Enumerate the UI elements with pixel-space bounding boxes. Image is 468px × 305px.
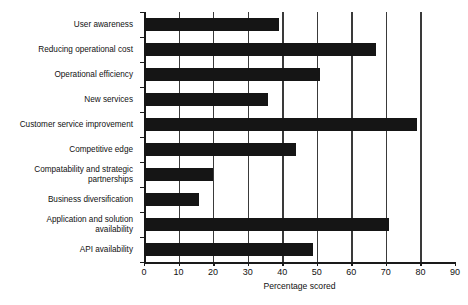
bar (144, 93, 268, 106)
bar-slot (144, 62, 455, 87)
bar (144, 43, 376, 56)
category-label: User awareness (0, 12, 138, 37)
x-tick-90 (455, 262, 456, 266)
bar-slot (144, 112, 455, 137)
bar (144, 168, 213, 181)
x-tick-20 (213, 262, 214, 266)
x-tick-label: 20 (208, 267, 218, 278)
bar (144, 68, 320, 81)
bar (144, 193, 199, 206)
category-label: Competitive edge (0, 137, 138, 162)
category-label: Reducing operational cost (0, 37, 138, 62)
bars-layer (144, 12, 455, 262)
category-axis-labels: User awareness Reducing operational cost… (0, 12, 138, 262)
bar-slot (144, 187, 455, 212)
x-tick-60 (351, 262, 352, 266)
bar-slot (144, 162, 455, 187)
category-label: Operational efficiency (0, 62, 138, 87)
category-label: Application and solution availability (0, 212, 138, 237)
category-label: API availability (0, 237, 138, 262)
x-tick-label: 70 (381, 267, 391, 278)
x-tick-80 (420, 262, 421, 266)
bar (144, 243, 313, 256)
x-tick-30 (248, 262, 249, 266)
plot-area (144, 12, 455, 262)
category-label: Compatability and strategic partnerships (0, 162, 138, 187)
bar-chart: User awareness Reducing operational cost… (0, 0, 468, 305)
category-label: Customer service improvement (0, 112, 138, 137)
x-tick-label: 50 (312, 267, 322, 278)
x-tick-10 (179, 262, 180, 266)
bar-slot (144, 237, 455, 262)
x-tick-label: 90 (450, 267, 460, 278)
x-tick-label: 80 (415, 267, 425, 278)
bar (144, 218, 389, 231)
x-axis-title: Percentage scored (144, 281, 455, 291)
x-tick-label: 60 (346, 267, 356, 278)
category-label: Business diversification (0, 187, 138, 212)
bar-slot (144, 137, 455, 162)
x-tick-50 (317, 262, 318, 266)
bar-slot (144, 87, 455, 112)
bar-slot (144, 12, 455, 37)
x-tick-label: 40 (277, 267, 287, 278)
bar-slot (144, 212, 455, 237)
bar (144, 118, 417, 131)
bar-slot (144, 37, 455, 62)
x-tick-label: 30 (243, 267, 253, 278)
bar (144, 18, 279, 31)
category-label: New services (0, 87, 138, 112)
x-tick-label: 10 (174, 267, 184, 278)
bar (144, 143, 296, 156)
x-tick-label: 0 (141, 267, 146, 278)
x-tick-0 (144, 262, 145, 266)
x-tick-40 (282, 262, 283, 266)
x-tick-70 (386, 262, 387, 266)
